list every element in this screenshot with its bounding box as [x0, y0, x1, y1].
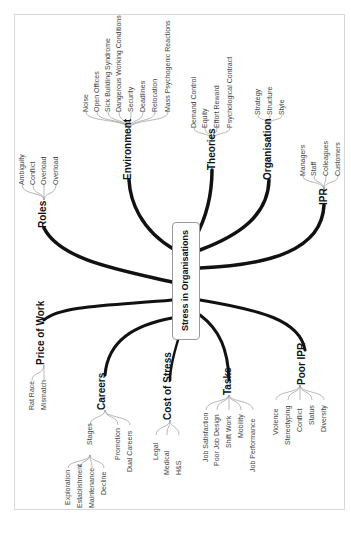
leaf-stages[interactable]: Stages — [86, 423, 94, 445]
leaf-psychological-contract[interactable]: Psychological Contract — [226, 57, 234, 128]
leaf-violence[interactable]: Violence — [272, 408, 280, 435]
leaf-promotion[interactable]: Promotion — [114, 428, 122, 460]
leaf-shift-work[interactable]: Shift Work — [225, 416, 233, 448]
branch-environment[interactable]: Environment — [122, 119, 133, 180]
leaf-relocation[interactable]: Relocation — [151, 79, 159, 112]
branch-theories[interactable]: Theories — [206, 128, 217, 170]
leaf-staff[interactable]: Staff — [310, 162, 318, 176]
branch-roles[interactable]: Roles — [37, 201, 48, 228]
leaf-legal[interactable]: Legal — [152, 443, 160, 460]
leaf-mass-psychogenic-reactions[interactable]: Mass Psychogenic Reactions — [164, 21, 172, 112]
link-roles — [44, 228, 172, 282]
leaf-medical[interactable]: Medical — [163, 451, 171, 475]
leaf-overload[interactable]: Overload — [40, 157, 48, 185]
leaf-demand-control[interactable]: Demand Control — [190, 77, 198, 128]
leaf-deadlines[interactable]: Deadlines — [139, 81, 147, 112]
leaf-establishment[interactable]: Establishment — [76, 464, 84, 508]
leaf-overload-2[interactable]: Overload — [52, 157, 60, 185]
link-environment — [129, 180, 175, 250]
leaf-customers[interactable]: Customers — [334, 142, 342, 176]
leaf-colleagues[interactable]: Colleagues — [322, 141, 330, 176]
branch-organisation[interactable]: Organisation — [262, 118, 273, 180]
leaf-strategy[interactable]: Strategy — [254, 89, 262, 115]
leaf-job-performance[interactable]: Job Performance — [249, 419, 257, 472]
branch-cost-of-stress[interactable]: Cost of Stress — [162, 352, 173, 420]
leaf-managers[interactable]: Managers — [299, 145, 307, 176]
leaf-rat-race[interactable]: Rat Race — [28, 381, 36, 410]
link-price-of-work — [44, 300, 172, 320]
leaf-security[interactable]: Security — [127, 87, 135, 112]
leaf-h-and-s[interactable]: H&S — [175, 461, 183, 475]
leaf-equity[interactable]: Equity — [201, 109, 209, 128]
branch-careers[interactable]: Careers — [96, 373, 107, 410]
branch-ipr[interactable]: IPR — [318, 188, 329, 205]
leaf-style[interactable]: Style — [278, 99, 286, 115]
leaf-poor-job-design[interactable]: Poor Job Design — [213, 414, 221, 466]
leaf-open-offices[interactable]: Open Offices — [93, 71, 101, 112]
leaf-structure[interactable]: Structure — [266, 87, 274, 115]
central-topic: Stress in Organisations — [181, 230, 189, 331]
leaf-effort-reward[interactable]: Effort Reward — [213, 85, 221, 128]
leaf-stereotyping[interactable]: Stereotyping — [284, 406, 292, 445]
leaf-maintenance[interactable]: Maintenance — [88, 468, 96, 508]
link-ipr — [200, 205, 324, 268]
leaf-job-satisfaction[interactable]: Job Satisfaction — [202, 413, 210, 462]
leaf-dual-careers[interactable]: Dual Careers — [126, 431, 134, 472]
branch-poor-ipr[interactable]: Poor IPR — [296, 343, 307, 385]
leaf-exploration[interactable]: Exploration — [64, 470, 72, 505]
leaf-decline[interactable]: Decline — [100, 472, 108, 495]
leaf-status[interactable]: Status — [308, 405, 316, 425]
leaf-noise[interactable]: Noise — [82, 94, 90, 112]
leaf-mobility[interactable]: Mobility — [237, 414, 245, 438]
leaf-ambiguity[interactable]: Ambiguity — [18, 154, 26, 185]
leaf-sick-building-syndrome[interactable]: Sick Building Syndrome — [104, 38, 112, 112]
branch-tasks[interactable]: Tasks — [222, 367, 233, 395]
link-poor-ipr — [200, 300, 305, 350]
leaf-diversity[interactable]: Diversity — [320, 405, 328, 432]
leaf-mismatch[interactable]: Mismatch — [40, 380, 48, 410]
leaf-dangerous-working-conditions[interactable]: Dangerous Working Conditions — [115, 15, 123, 112]
leaf-conflict[interactable]: Conflict — [29, 162, 37, 185]
leaf-conflict-ipr[interactable]: Conflict — [296, 409, 304, 432]
branch-price-of-work[interactable]: Price of Work — [35, 301, 46, 365]
